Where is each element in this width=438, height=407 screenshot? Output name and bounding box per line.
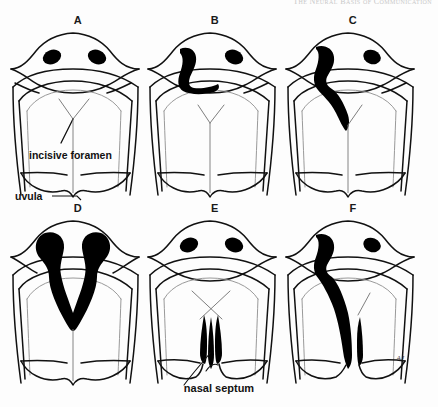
cleft-complete-unilateral bbox=[314, 234, 352, 369]
cleft-bilateral bbox=[36, 232, 110, 331]
panel-e: E bbox=[142, 202, 288, 392]
nasal-septum-shape bbox=[208, 317, 214, 369]
panel-e-illustration bbox=[142, 213, 288, 392]
cleft-lip-alveolus-unilateral bbox=[314, 46, 349, 131]
running-title: The Neural Basis of Communication bbox=[293, 0, 432, 6]
annotation-incisive-foramen: incisive foramen bbox=[29, 149, 112, 161]
palate-shelf-right bbox=[357, 317, 363, 366]
panel-a-illustration bbox=[5, 25, 151, 204]
figure-page: The Neural Basis of Communication A bbox=[0, 0, 438, 407]
panel-a: A bbox=[5, 14, 151, 204]
panel-d: D bbox=[5, 202, 151, 392]
annotation-uvula: uvula bbox=[15, 190, 42, 202]
nostril-right bbox=[86, 47, 109, 67]
nostril-right bbox=[361, 235, 383, 255]
panel-f: F bbox=[280, 202, 426, 392]
nostril-left bbox=[41, 47, 64, 67]
panel-b-illustration bbox=[142, 25, 288, 204]
panel-c: C bbox=[280, 14, 426, 204]
nostril-right bbox=[223, 235, 246, 255]
nostril-left bbox=[178, 235, 201, 255]
panel-f-illustration bbox=[280, 213, 426, 392]
cleft-lip-unilateral bbox=[178, 48, 219, 94]
running-header: The Neural Basis of Communication bbox=[0, 0, 438, 11]
nostril-right bbox=[361, 47, 383, 67]
annotation-nasal-septum: nasal septum bbox=[0, 382, 438, 394]
artist-signature: AJ bbox=[397, 354, 404, 362]
panel-c-illustration bbox=[280, 25, 426, 204]
panel-b: B bbox=[142, 14, 288, 204]
nostril-right bbox=[223, 47, 246, 67]
panel-d-illustration bbox=[5, 213, 151, 392]
